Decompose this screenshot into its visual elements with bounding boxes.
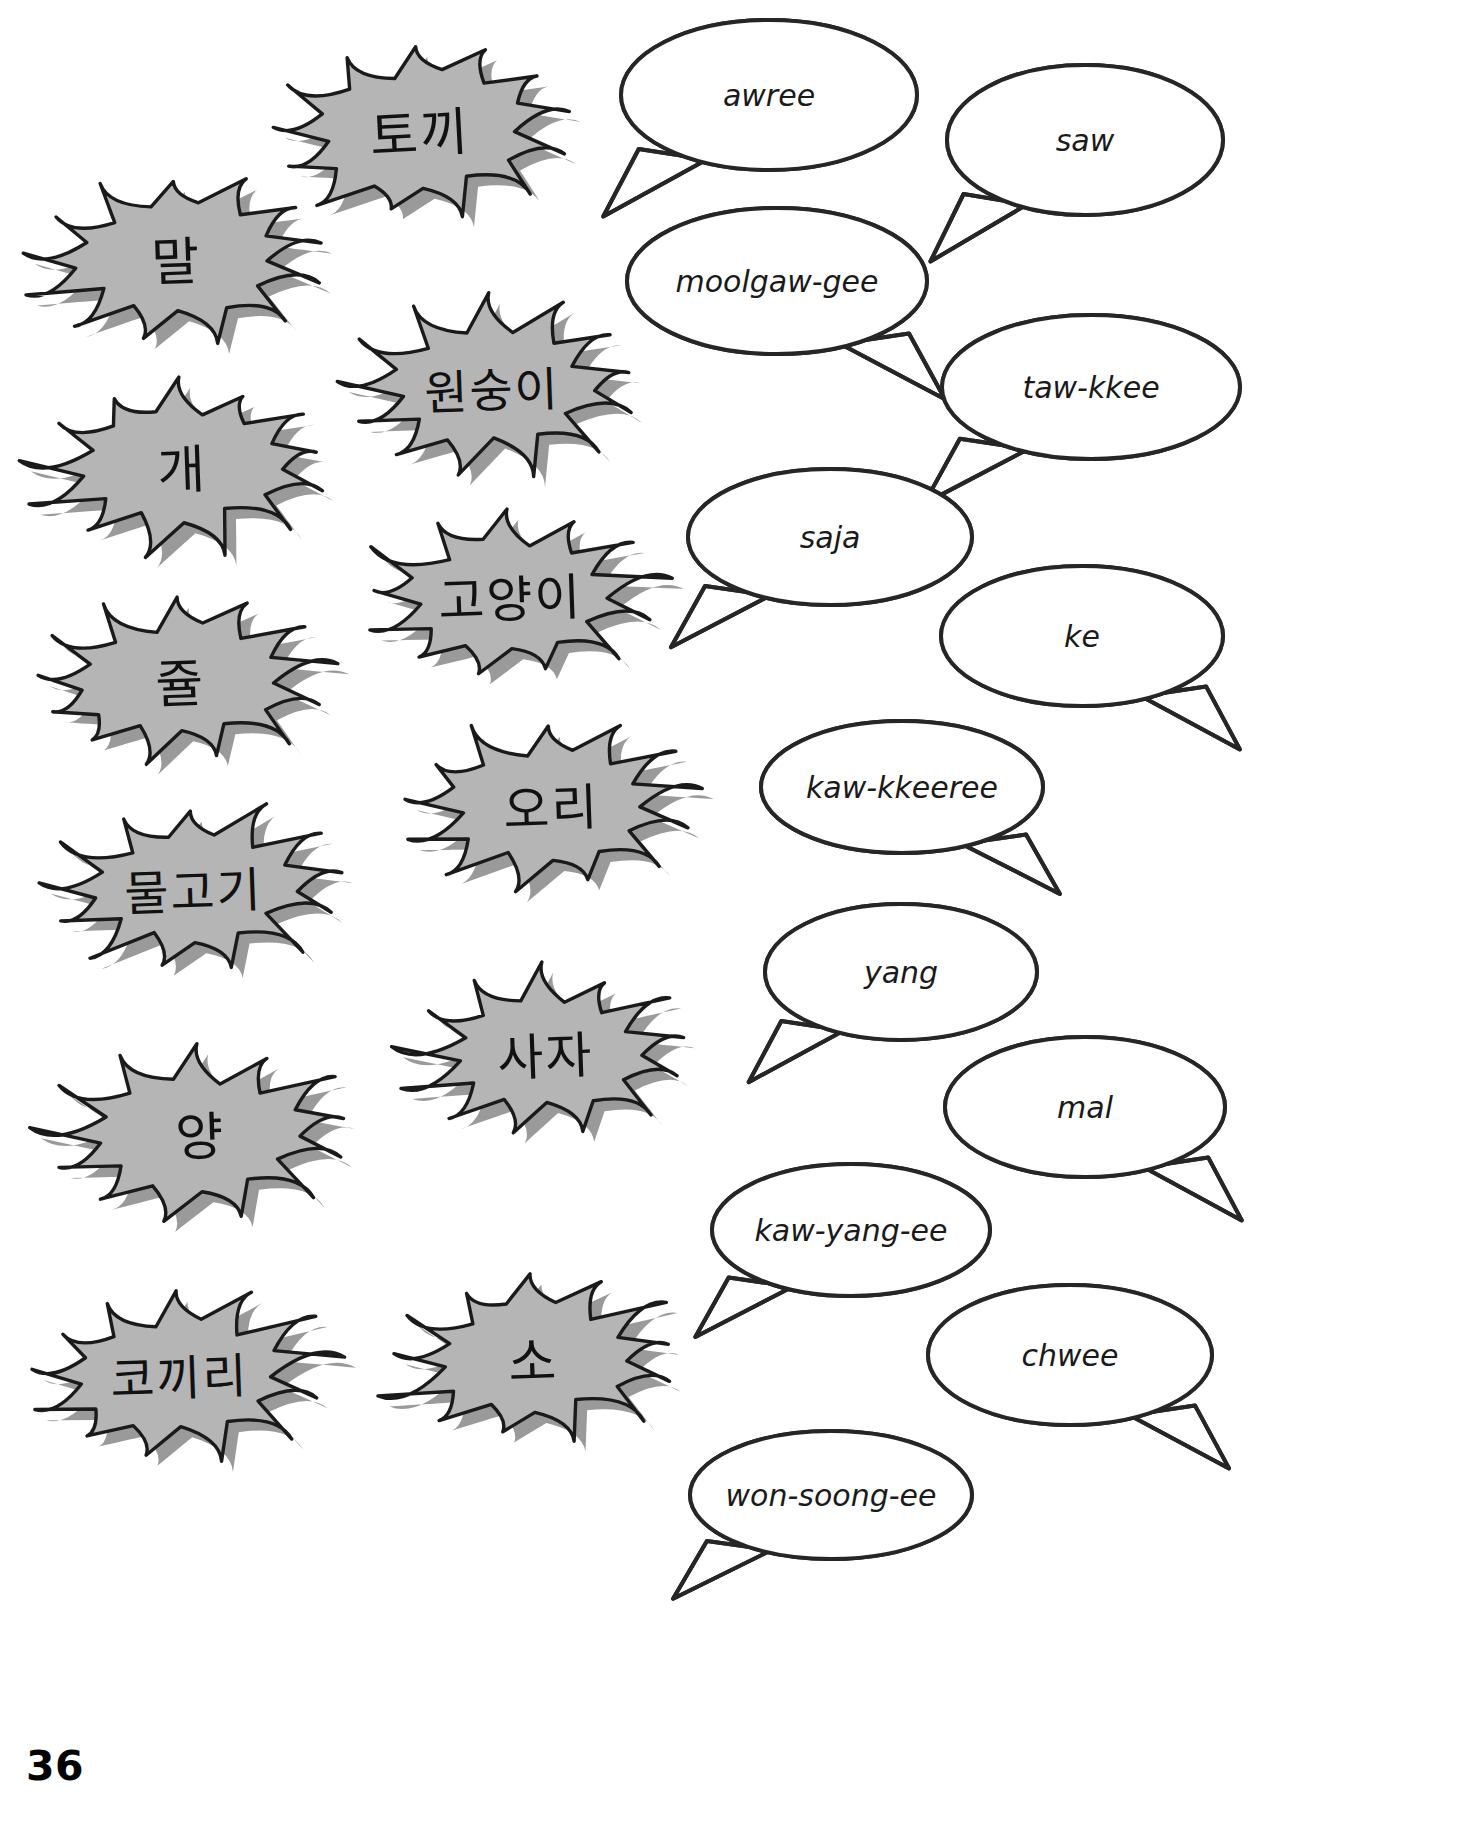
bubble-saja-label: saja	[800, 520, 861, 555]
worksheet-page: 토끼말원숭이개고양이쥴오리물고기사자양소코끼리awreesawmoolgaw-g…	[0, 0, 1459, 1823]
bubble-won-soong-ee-label: won-soong-ee	[726, 1478, 937, 1513]
bubble-moolgaw-gee-label: moolgaw-gee	[675, 264, 878, 299]
burst-duck-label: 오리	[502, 766, 600, 841]
page-number: 36	[26, 1742, 84, 1790]
burst-rabbit-label: 토끼	[368, 90, 472, 170]
bubble-kaw-kkeeree-label: kaw-kkeeree	[806, 770, 998, 805]
bubble-kaw-yang-ee-label: kaw-yang-ee	[754, 1213, 947, 1248]
burst-elephant-label: 코끼리	[109, 1337, 249, 1412]
burst-mouse-label: 쥴	[154, 642, 207, 719]
bubble-awree-label: awree	[723, 78, 815, 113]
burst-monkey-label: 원숭이	[424, 350, 561, 424]
bubble-saw-label: saw	[1056, 123, 1115, 158]
burst-horse-label: 말	[150, 220, 203, 297]
burst-dog-label: 개	[156, 428, 209, 505]
bubble-mal-label: mal	[1057, 1090, 1113, 1125]
burst-lion-label: 사자	[496, 1014, 594, 1089]
burst-cow-label: 소	[507, 1320, 560, 1397]
burst-cat-label: 고양이	[437, 557, 583, 634]
bubble-chwee-label: chwee	[1022, 1338, 1119, 1373]
burst-fish-label: 물고기	[123, 851, 263, 926]
bubble-yang-label: yang	[864, 955, 938, 990]
text-layer: 토끼말원숭이개고양이쥴오리물고기사자양소코끼리awreesawmoolgaw-g…	[0, 0, 1459, 1823]
burst-sheep-label: 양	[174, 1095, 227, 1172]
bubble-ke-label: ke	[1064, 619, 1100, 654]
bubble-taw-kkee-label: taw-kkee	[1022, 370, 1159, 405]
